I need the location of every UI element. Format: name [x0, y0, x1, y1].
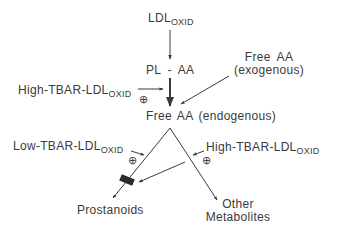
inhibition-block	[119, 174, 135, 186]
node-ldl-oxid: LDLOXID	[148, 12, 194, 29]
node-low-tbar-ldl-oxid: Low-TBAR-LDLOXID	[13, 140, 123, 157]
node-high-tbar-ldl-oxid-right: High-TBAR-LDLOXID	[206, 141, 319, 158]
arrow-to-prostanoids	[113, 128, 170, 198]
node-free-aa-endogenous: Free AA (endogenous)	[146, 110, 276, 123]
stimulation-plus-icon: ⊕	[202, 155, 211, 166]
arrow-exogenous-to-endogenous	[181, 76, 229, 104]
node-pl-aa: PL - AA	[146, 64, 194, 77]
arrow-inhibition-to-block	[139, 162, 185, 182]
node-high-tbar-ldl-oxid-left: High-TBAR-LDLOXID	[18, 84, 131, 101]
node-other-metabolites: Other Metabolites	[203, 198, 273, 224]
node-free-aa-exogenous: Free AA (exogenous)	[228, 51, 310, 77]
stimulation-plus-icon: ⊕	[128, 155, 137, 166]
node-prostanoids: Prostanoids	[77, 204, 144, 217]
stimulation-plus-icon: ⊕	[139, 94, 148, 105]
